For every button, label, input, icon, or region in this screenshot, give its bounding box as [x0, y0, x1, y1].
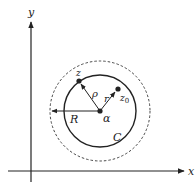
y-axis-label: y	[27, 6, 35, 19]
label-R: R	[69, 113, 78, 126]
label-z: z	[75, 68, 81, 78]
complex-plane-diagram: y x z ρ r z0 α R C	[0, 0, 196, 192]
label-C: C	[113, 131, 122, 144]
label-z0-sub: 0	[125, 97, 129, 105]
x-axis-label: x	[188, 165, 195, 178]
label-rho: ρ	[91, 88, 98, 99]
point-z	[76, 78, 81, 83]
point-z0	[115, 86, 120, 91]
label-r: r	[104, 93, 110, 104]
label-z0: z0	[119, 93, 129, 105]
label-alpha: α	[103, 112, 111, 125]
center-alpha-point	[97, 108, 102, 113]
